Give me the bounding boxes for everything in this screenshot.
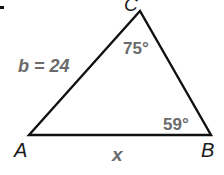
angle-label-c: 75° [123,39,149,58]
triangle-figure: C A B b = 24 x 75° 59° [0,0,224,175]
triangle-diagram: C A B b = 24 x 75° 59° [0,0,224,175]
vertex-label-a: A [13,139,27,161]
side-label-x: x [111,144,124,165]
stray-mark [0,6,4,9]
side-label-b: b = 24 [18,56,70,76]
angle-label-b: 59° [163,115,189,134]
vertex-label-c: C [124,0,138,15]
vertex-label-b: B [201,139,214,161]
